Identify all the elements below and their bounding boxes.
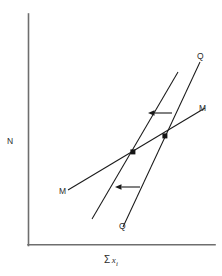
q-original-curve-label-top: Q [197, 52, 204, 61]
m-curve-label-left: M [59, 187, 66, 196]
new-equilibrium-dot [130, 149, 135, 154]
diagram-canvas [0, 0, 222, 276]
figure-container: N Q Q M M Σxi [0, 0, 222, 276]
x-axis-label: Σxi [0, 255, 222, 268]
y-axis-label: N [7, 137, 13, 146]
q-original-curve [123, 62, 200, 227]
m-curve [68, 108, 205, 190]
upper-shift-arrow [148, 110, 172, 116]
upper-shift-arrow-head [148, 110, 155, 116]
q-original-curve-label-bottom: Q [119, 222, 126, 231]
q-shifted-curve [92, 72, 178, 219]
lower-shift-arrow-head [115, 184, 122, 190]
x-subscript-symbol: i [116, 260, 118, 268]
original-equilibrium-dot [162, 133, 167, 138]
axes-group [28, 14, 215, 246]
m-curve-label-right: M [199, 104, 206, 113]
curves-group [68, 62, 205, 227]
lower-shift-arrow [115, 184, 140, 190]
